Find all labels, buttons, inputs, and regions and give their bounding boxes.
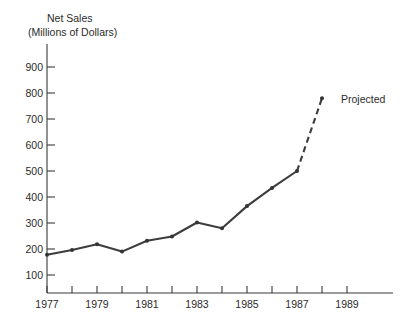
data-point [320, 96, 324, 100]
chart-screenshot: Net Sales (Millions of Dollars) 900 800 … [0, 0, 400, 332]
x-tick-label: 1985 [235, 298, 259, 310]
data-point [220, 226, 224, 230]
x-tick-label: 1989 [335, 298, 359, 310]
net-sales-line-chart: Net Sales (Millions of Dollars) 900 800 … [0, 0, 400, 332]
y-tick-label: 800 [25, 87, 43, 99]
data-point [195, 220, 199, 224]
data-point [95, 242, 99, 246]
y-tick-label: 900 [25, 61, 43, 73]
data-point [245, 204, 249, 208]
y-tick-label: 700 [25, 113, 43, 125]
actual-sales-line [47, 171, 297, 255]
projected-sales-line [297, 98, 322, 171]
data-point [295, 169, 299, 173]
x-tick-label: 1977 [35, 298, 59, 310]
data-point-markers [45, 96, 324, 257]
chart-title: Net Sales [47, 12, 93, 24]
y-tick-label: 300 [25, 217, 43, 229]
x-tick-label: 1981 [135, 298, 159, 310]
y-tick-label: 600 [25, 139, 43, 151]
x-axis-ticks: 1977 1979 1981 1983 1985 1987 [35, 286, 359, 310]
y-tick-label: 100 [25, 269, 43, 281]
x-tick-label: 1987 [285, 298, 309, 310]
y-tick-label: 400 [25, 191, 43, 203]
y-tick-label: 200 [25, 243, 43, 255]
data-point [170, 235, 174, 239]
data-point [120, 250, 124, 254]
data-point [45, 253, 49, 257]
y-axis-ticks: 900 800 700 600 500 400 300 200 100 [25, 61, 55, 281]
chart-subtitle: (Millions of Dollars) [28, 26, 117, 38]
data-point [70, 248, 74, 252]
x-tick-label: 1983 [185, 298, 209, 310]
projected-annotation-label: Projected [341, 93, 386, 105]
data-point [270, 186, 274, 190]
data-point [145, 239, 149, 243]
x-tick-label: 1979 [85, 298, 109, 310]
y-tick-label: 500 [25, 165, 43, 177]
